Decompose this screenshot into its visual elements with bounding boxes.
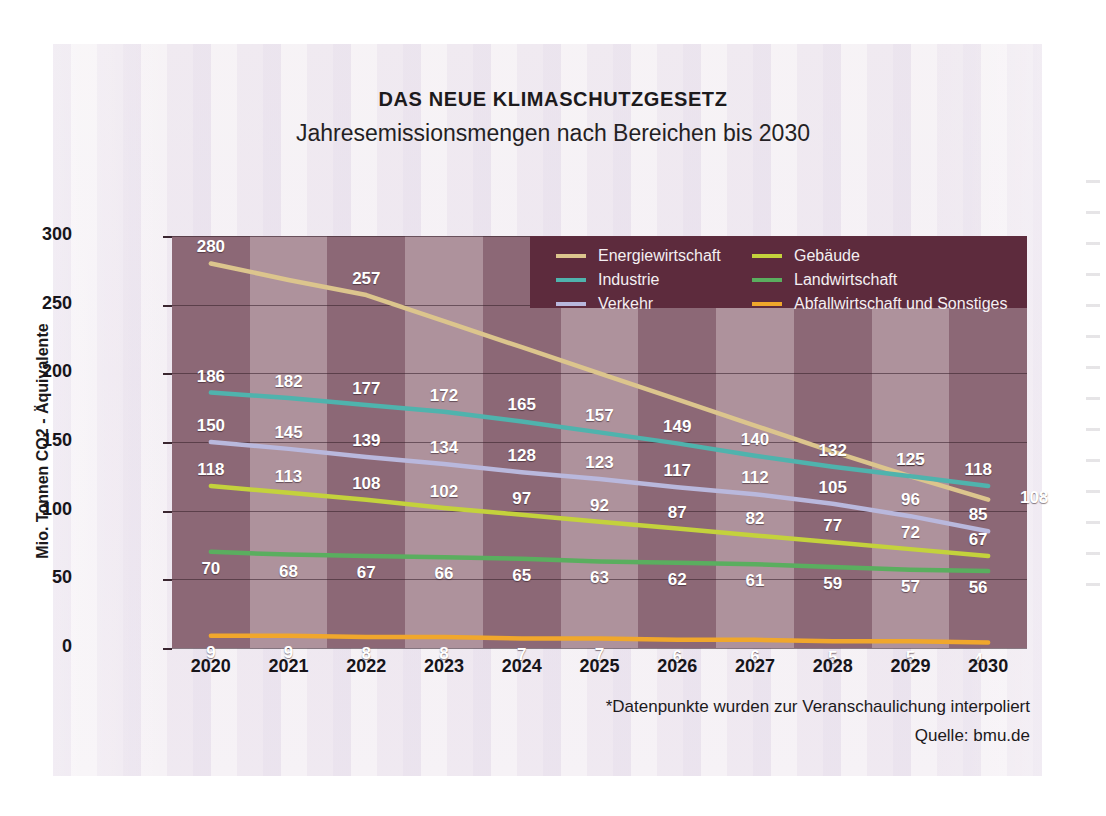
y-axis-tick-label: 200 (0, 361, 72, 382)
data-point-label: 140 (741, 430, 769, 450)
y-axis-tick-mark (163, 511, 172, 513)
y-axis-tick-label: 50 (0, 567, 72, 588)
data-point-label: 112 (741, 468, 768, 488)
legend-swatch-icon (752, 278, 782, 282)
data-point-label: 108 (352, 474, 380, 494)
y-axis-tick-mark (163, 236, 172, 238)
legend-item-industrie[interactable]: Industrie (556, 271, 752, 289)
data-point-label: 139 (352, 431, 380, 451)
y-axis-tick-label: 150 (0, 430, 72, 451)
data-point-label: 145 (274, 423, 302, 443)
data-point-label: 118 (197, 460, 224, 480)
data-point-label: 123 (585, 453, 613, 473)
y-axis-tick-label: 100 (0, 499, 72, 520)
legend-item-abfallwirtschaft[interactable]: Abfallwirtschaft und Sonstiges (752, 295, 1007, 313)
chart-legend: Energiewirtschaft Gebäude Industrie Land… (530, 236, 1027, 308)
data-point-label: 128 (508, 446, 536, 466)
data-point-label: 65 (512, 566, 531, 586)
y-axis-tick-label: 0 (0, 636, 72, 657)
y-axis-tick-mark (163, 305, 172, 307)
legend-row: Verkehr Abfallwirtschaft und Sonstiges (556, 292, 1027, 316)
legend-swatch-icon (752, 254, 782, 258)
data-point-label: 186 (197, 367, 225, 387)
y-axis-tick-mark (163, 648, 172, 650)
data-point-label: 85 (969, 505, 988, 525)
x-axis-tick-label: 2030 (943, 656, 1033, 677)
legend-swatch-icon (556, 254, 586, 258)
data-point-label: 172 (430, 386, 458, 406)
x-axis-tick-label: 2024 (477, 656, 567, 677)
data-point-label: 67 (969, 530, 988, 550)
data-point-label: 149 (663, 417, 691, 437)
y-axis-tick-mark (163, 579, 172, 581)
page-title: DAS NEUE KLIMASCHUTZGESETZ (0, 88, 1106, 111)
data-point-label: 67 (357, 563, 376, 583)
data-point-label: 105 (818, 478, 846, 498)
data-point-label: 177 (352, 379, 380, 399)
x-axis-tick-label: 2028 (788, 656, 878, 677)
legend-swatch-icon (556, 278, 586, 282)
data-point-label: 182 (274, 372, 302, 392)
data-point-label: 92 (590, 496, 609, 516)
data-point-label: 157 (585, 406, 613, 426)
data-point-label: 150 (197, 416, 225, 436)
legend-item-landwirtschaft[interactable]: Landwirtschaft (752, 271, 897, 289)
x-axis-tick-label: 2027 (710, 656, 800, 677)
y-axis-tick-label: 300 (0, 224, 72, 245)
y-axis-tick-label: 250 (0, 293, 72, 314)
legend-row: Energiewirtschaft Gebäude (556, 244, 1027, 268)
series-line-abfallwirtschaft (211, 636, 988, 643)
y-axis-tick-mark (163, 442, 172, 444)
x-axis-tick-label: 2029 (865, 656, 955, 677)
x-axis-tick-label: 2023 (399, 656, 489, 677)
data-point-label: 57 (901, 577, 920, 597)
data-point-label: 66 (435, 564, 454, 584)
data-point-label: 118 (964, 460, 991, 480)
data-point-label: 87 (668, 503, 687, 523)
legend-label: Landwirtschaft (794, 271, 897, 289)
data-point-label: 68 (279, 562, 298, 582)
data-point-label: 134 (430, 438, 458, 458)
legend-label: Abfallwirtschaft und Sonstiges (794, 295, 1007, 313)
data-point-label: 59 (823, 574, 842, 594)
data-point-label: 132 (818, 441, 846, 461)
y-axis-tick-mark (163, 373, 172, 375)
data-point-label: 61 (745, 571, 764, 591)
legend-swatch-icon (752, 302, 782, 306)
infographic-page: DAS NEUE KLIMASCHUTZGESETZ Jahresemissio… (0, 0, 1106, 816)
data-point-label: 72 (901, 523, 920, 543)
x-axis-tick-label: 2026 (632, 656, 722, 677)
footnote-interpolation: *Datenpunkte wurden zur Veranschaulichun… (0, 697, 1030, 717)
legend-label: Verkehr (598, 295, 653, 313)
data-point-label: 113 (275, 467, 302, 487)
legend-swatch-icon (556, 302, 586, 306)
data-point-label: 56 (969, 578, 988, 598)
adjacent-page-text-sliver (1086, 180, 1100, 600)
x-axis-tick-label: 2021 (244, 656, 334, 677)
page-subtitle: Jahresemissionsmengen nach Bereichen bis… (0, 120, 1106, 147)
data-point-label: 97 (512, 489, 531, 509)
x-axis-tick-label: 2020 (166, 656, 256, 677)
legend-item-gebaeude[interactable]: Gebäude (752, 247, 860, 265)
data-point-label: 96 (901, 490, 920, 510)
x-axis-tick-label: 2022 (321, 656, 411, 677)
data-point-label: 125 (896, 450, 924, 470)
data-point-label: 102 (430, 482, 458, 502)
legend-label: Industrie (598, 271, 659, 289)
legend-label: Gebäude (794, 247, 860, 265)
data-point-label: 62 (668, 570, 687, 590)
x-axis-tick-label: 2025 (555, 656, 645, 677)
data-point-label: 77 (823, 516, 842, 536)
data-point-label: 165 (508, 395, 536, 415)
legend-item-energiewirtschaft[interactable]: Energiewirtschaft (556, 247, 752, 265)
data-point-label: 82 (745, 509, 764, 529)
data-point-label: 117 (664, 461, 691, 481)
data-point-label: 257 (352, 269, 380, 289)
legend-item-verkehr[interactable]: Verkehr (556, 295, 752, 313)
legend-row: Industrie Landwirtschaft (556, 268, 1027, 292)
legend-label: Energiewirtschaft (598, 247, 721, 265)
data-point-label: 63 (590, 568, 609, 588)
data-point-label: 280 (197, 237, 225, 257)
data-point-label: 70 (201, 559, 220, 579)
data-point-label: 108 (1020, 488, 1048, 508)
